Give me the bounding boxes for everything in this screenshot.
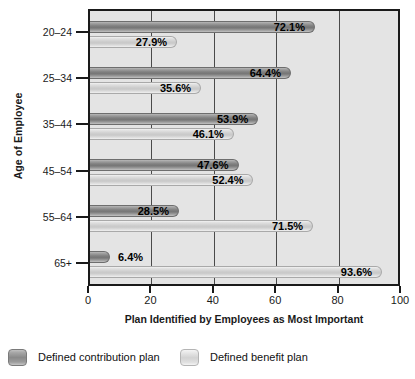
x-tick-label-80: 80 (318, 294, 358, 306)
x-tick-0 (87, 286, 89, 293)
x-tick-100 (399, 286, 401, 293)
y-tick-label-5: 65+ (0, 257, 72, 269)
bar-value-label-5-1: 93.6% (341, 266, 372, 278)
x-tick-20 (149, 286, 151, 293)
bar-5-0 (90, 251, 110, 263)
x-tick-label-100: 100 (380, 294, 415, 306)
y-tick-0 (76, 31, 88, 33)
y-axis-title: Age of Employee (12, 66, 24, 206)
gridline-x-20 (151, 11, 152, 284)
bar-value-label-3-1: 52.4% (212, 174, 243, 186)
bar-value-label-3-0: 47.6% (197, 159, 228, 171)
bar-5-1 (90, 266, 382, 278)
y-tick-label-0: 20–24 (0, 26, 72, 38)
legend-swatch-icon-0 (8, 349, 27, 366)
bar-value-label-0-0: 72.1% (274, 21, 305, 33)
plot-inner: 72.1%27.9%64.4%35.6%53.9%46.1%47.6%52.4%… (90, 11, 398, 284)
bar-chart-figure: Age of Employee 72.1%27.9%64.4%35.6%53.9… (0, 0, 415, 379)
x-tick-40 (212, 286, 214, 293)
bar-value-label-4-1: 71.5% (272, 220, 303, 232)
legend-label-0: Defined contribution plan (38, 351, 160, 363)
bar-value-label-5-0: 6.4% (118, 251, 143, 263)
y-tick-label-4: 55–64 (0, 211, 72, 223)
legend-item-1[interactable]: Defined benefit plan (180, 344, 308, 370)
chart-legend: Defined contribution planDefined benefit… (0, 344, 415, 374)
bar-value-label-1-1: 35.6% (160, 82, 191, 94)
x-tick-80 (337, 286, 339, 293)
y-tick-label-1: 25–34 (0, 72, 72, 84)
legend-label-1: Defined benefit plan (210, 351, 308, 363)
y-tick-label-3: 45–54 (0, 165, 72, 177)
x-tick-label-40: 40 (193, 294, 233, 306)
legend-item-0[interactable]: Defined contribution plan (8, 344, 160, 370)
gridline-x-40 (214, 11, 215, 284)
gridline-x-80 (339, 11, 340, 284)
legend-swatch-icon-1 (180, 349, 199, 366)
x-tick-label-0: 0 (68, 294, 108, 306)
y-tick-3 (76, 170, 88, 172)
y-tick-label-2: 35–44 (0, 118, 72, 130)
x-axis-title: Plan Identified by Employees as Most Imp… (88, 313, 400, 325)
x-tick-label-20: 20 (130, 294, 170, 306)
y-tick-2 (76, 123, 88, 125)
plot-area: 72.1%27.9%64.4%35.6%53.9%46.1%47.6%52.4%… (88, 9, 400, 286)
bar-value-label-4-0: 28.5% (138, 205, 169, 217)
y-tick-4 (76, 216, 88, 218)
bar-value-label-0-1: 27.9% (136, 36, 167, 48)
x-tick-label-60: 60 (255, 294, 295, 306)
x-tick-60 (274, 286, 276, 293)
bar-value-label-2-0: 53.9% (217, 113, 248, 125)
y-tick-5 (76, 262, 88, 264)
gridline-x-60 (276, 11, 277, 284)
bar-value-label-2-1: 46.1% (193, 128, 224, 140)
y-tick-1 (76, 77, 88, 79)
bar-value-label-1-0: 64.4% (250, 67, 281, 79)
